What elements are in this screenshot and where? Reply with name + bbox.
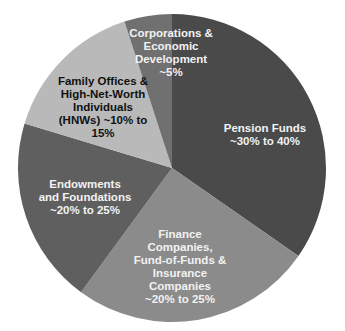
label-finance-companies: Finance Companies, Fund-of-Funds & Insur… (125, 228, 235, 306)
label-pension-funds: Pension Funds ~30% to 40% (210, 122, 320, 148)
label-endowments-foundations: Endowments and Foundations ~20% to 25% (30, 178, 140, 217)
label-family-offices: Family Offices & High-Net-Worth Individu… (48, 75, 158, 140)
label-corporations: Corporations & Economic Development ~5% (116, 27, 226, 79)
